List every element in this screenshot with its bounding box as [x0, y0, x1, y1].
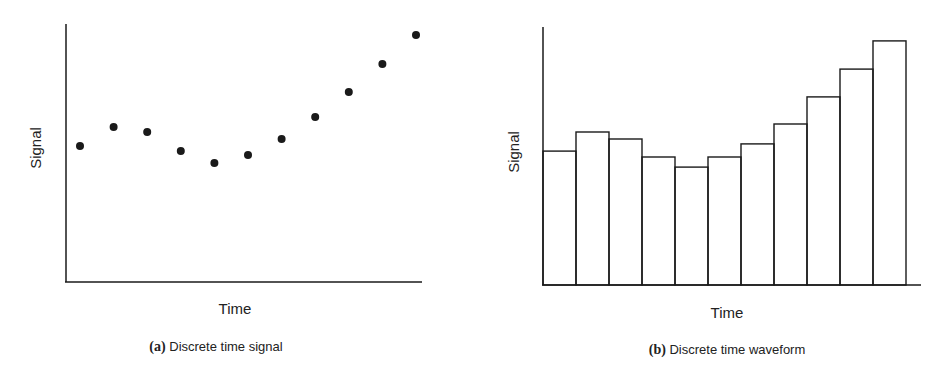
bar — [741, 144, 774, 285]
panel-a-caption: (a) Discrete time signal — [149, 339, 282, 355]
panel-a-scatter: Signal Time — [27, 24, 422, 317]
panel-a-data-points — [76, 31, 420, 167]
panel-a-caption-label: (a) — [149, 339, 165, 354]
bar — [675, 167, 708, 285]
data-point — [143, 128, 151, 136]
panel-a-x-label: Time — [219, 300, 252, 317]
panel-b-caption-label: (b) — [649, 342, 666, 357]
bar — [708, 157, 741, 285]
figure-canvas: Signal Time Signal Time — [0, 0, 940, 380]
panel-b-bar-group — [543, 41, 906, 285]
data-point — [378, 60, 386, 68]
data-point — [311, 113, 319, 121]
panel-b-bars: Signal Time — [505, 27, 921, 321]
panel-a-y-label: Signal — [27, 127, 44, 169]
panel-b-caption-text: Discrete time waveform — [666, 342, 805, 357]
bar — [840, 69, 873, 285]
panel-b-y-label: Signal — [505, 131, 522, 173]
data-point — [278, 135, 286, 143]
data-point — [210, 159, 218, 167]
data-point — [177, 147, 185, 155]
bar — [807, 97, 840, 285]
bar — [576, 132, 609, 285]
bar — [543, 151, 576, 285]
data-point — [110, 123, 118, 131]
data-point — [412, 31, 420, 39]
data-point — [76, 142, 84, 150]
bar — [774, 124, 807, 285]
panel-a-caption-text: Discrete time signal — [166, 339, 283, 354]
data-point — [244, 151, 252, 159]
panel-b-x-label: Time — [711, 304, 744, 321]
bar — [873, 41, 906, 285]
panel-b-caption: (b) Discrete time waveform — [649, 342, 806, 358]
data-point — [345, 88, 353, 96]
bar — [609, 139, 642, 285]
bar — [642, 157, 675, 285]
